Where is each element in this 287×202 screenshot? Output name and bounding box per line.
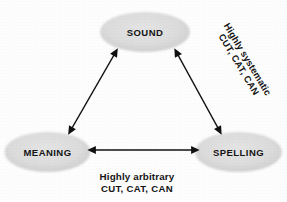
node-label-sound: SOUND xyxy=(127,27,164,38)
caption-bottom-line-2: CUT, CAT, CAN xyxy=(100,183,175,194)
concept-triangle-diagram: SOUND MEANING SPELLING Highly arbitrary … xyxy=(0,0,287,202)
node-label-spelling: SPELLING xyxy=(213,147,264,158)
connector-caption-meaning-spelling: Highly arbitrary CUT, CAT, CAN xyxy=(100,171,175,194)
connector-arrow-meaning-sound xyxy=(72,55,114,128)
connector-arrow-sound-spelling xyxy=(178,55,218,128)
node-label-meaning: MEANING xyxy=(23,147,71,158)
caption-bottom-line-1: Highly arbitrary xyxy=(100,171,175,183)
